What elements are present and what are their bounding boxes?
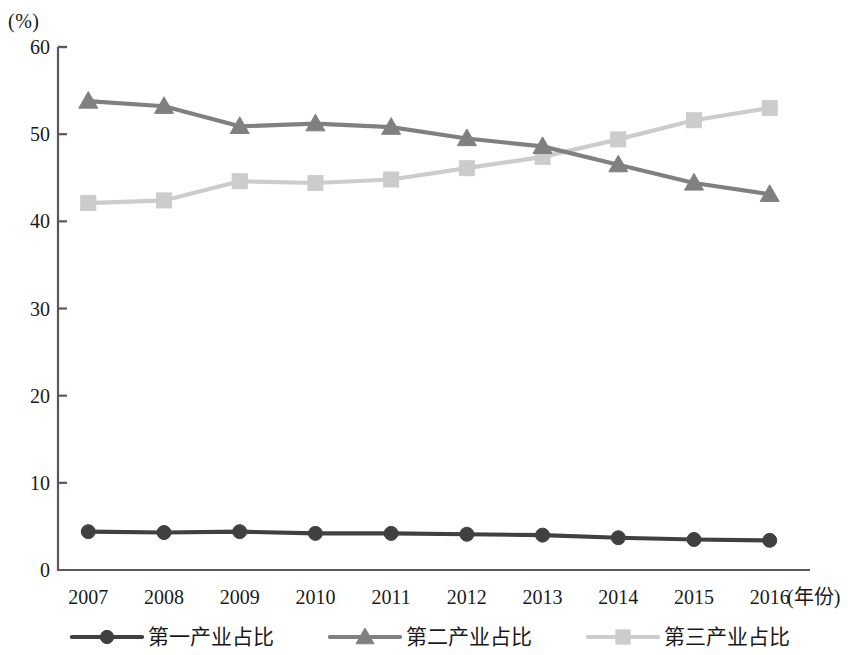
x-tick-label: 2010 (295, 586, 335, 608)
data-point-circle (157, 526, 171, 540)
series-line (88, 532, 769, 541)
data-point-square (384, 172, 399, 187)
legend-item-2[interactable]: 第二产业占比 (328, 624, 532, 650)
series-line (88, 101, 769, 194)
data-point-square (687, 113, 702, 128)
series-2 (79, 92, 779, 202)
data-point-square (611, 132, 626, 147)
data-point-square (81, 196, 96, 211)
x-tick-label: 2012 (447, 586, 487, 608)
line-chart: (%) 0102030405060 2007200820092010201120… (0, 0, 859, 655)
x-tick-label: 2009 (220, 586, 260, 608)
data-point-circle (536, 528, 550, 542)
legend-marker-circle-icon (70, 624, 144, 650)
data-point-circle (100, 630, 113, 643)
data-point-square (615, 630, 629, 644)
data-point-circle (687, 532, 701, 546)
series-1 (81, 525, 776, 548)
legend-item-1[interactable]: 第一产业占比 (70, 624, 274, 650)
y-axis-ticks (58, 47, 67, 483)
data-point-square (762, 101, 777, 116)
x-tick-label: 2013 (523, 586, 563, 608)
legend-item-3[interactable]: 第三产业占比 (586, 624, 790, 650)
data-point-circle (460, 527, 474, 541)
x-tick-label: 2007 (68, 586, 108, 608)
legend-marker-triangle-icon (328, 624, 402, 650)
x-tick-label: 2008 (144, 586, 184, 608)
x-tick-label: 2016 (750, 586, 790, 608)
data-point-circle (611, 531, 625, 545)
legend-marker-square-icon (586, 624, 660, 650)
data-series-layer (79, 92, 779, 548)
data-point-square (232, 174, 247, 189)
data-point-circle (763, 533, 777, 547)
data-point-circle (81, 525, 95, 539)
chart-legend: 第一产业占比第二产业占比第三产业占比 (0, 624, 859, 650)
legend-label: 第二产业占比 (406, 625, 532, 649)
x-tick-label: 2011 (372, 586, 411, 608)
series-line (88, 108, 769, 203)
x-axis-title: (年份) (787, 586, 840, 608)
plot-area (0, 0, 859, 655)
x-tick-label: 2014 (598, 586, 638, 608)
data-point-circle (384, 526, 398, 540)
data-point-square (308, 175, 323, 190)
legend-label: 第三产业占比 (664, 625, 790, 649)
legend-label: 第一产业占比 (148, 625, 274, 649)
data-point-circle (233, 525, 247, 539)
data-point-square (459, 161, 474, 176)
x-tick-label: 2015 (674, 586, 714, 608)
series-3 (81, 101, 777, 211)
data-point-circle (308, 526, 322, 540)
data-point-square (157, 193, 172, 208)
